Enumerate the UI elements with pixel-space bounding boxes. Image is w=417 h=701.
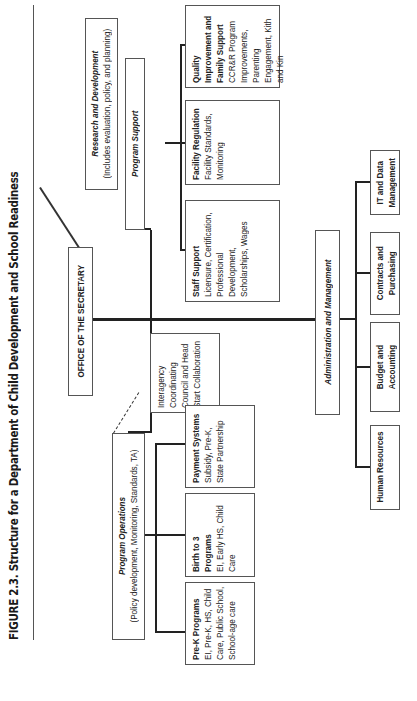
research-subtitle: (Includes evaluation, policy, and planni… bbox=[101, 19, 113, 190]
it-data-management-label: IT and Data Management bbox=[374, 151, 398, 214]
title-rule bbox=[33, 5, 34, 640]
ps-down bbox=[165, 143, 180, 145]
birth-to-3-box: Birth to 3 Programs EI, Early HS, Child … bbox=[185, 493, 255, 577]
admin-to-it bbox=[355, 182, 370, 184]
org-chart: FIGURE 2.3. Structure for a Department o… bbox=[0, 0, 417, 701]
program-operations-box: Program Operations (Policy development, … bbox=[112, 433, 145, 640]
admin-to-budget bbox=[355, 367, 370, 369]
pre-k-programs-box: Pre-K Programs EI, Pre-K, HS, Child Care… bbox=[185, 582, 255, 665]
budget-accounting-label: Budget and Accounting bbox=[374, 323, 398, 411]
pre-k-programs-title: Pre-K Programs bbox=[190, 587, 202, 660]
birth-to-3-title: Birth to 3 Programs bbox=[190, 498, 214, 572]
pre-k-programs-body: EI, Pre-K, HS, Child Care, Public School… bbox=[202, 587, 238, 660]
human-resources-label: Human Resources bbox=[374, 426, 386, 509]
program-support-box: Program Support bbox=[125, 58, 145, 230]
office-of-secretary-label: OFFICE OF THE SECRETARY bbox=[75, 248, 87, 395]
po-stem bbox=[145, 535, 155, 537]
payment-systems-title: Payment Systems bbox=[190, 410, 202, 483]
interagency-box: Interagency Coordinating Council and Hea… bbox=[150, 333, 220, 413]
ops-to-interagency-dashed-line bbox=[113, 392, 139, 433]
program-operations-subtitle: (Policy development, Monitoring, Standar… bbox=[128, 434, 140, 640]
staff-support-body: Licensure, Certification, Professional D… bbox=[202, 205, 250, 297]
ps-rail bbox=[180, 45, 182, 251]
contracts-purchasing-label: Contracts and Purchasing bbox=[374, 233, 398, 314]
administration-title: Administration and Management bbox=[322, 231, 334, 415]
contracts-purchasing-box: Contracts and Purchasing bbox=[370, 232, 400, 315]
admin-stem bbox=[340, 319, 355, 321]
central-spine bbox=[93, 319, 315, 321]
it-data-management-box: IT and Data Management bbox=[370, 150, 400, 215]
po-to-payment bbox=[155, 444, 185, 446]
po-to-birth3 bbox=[155, 535, 185, 537]
staff-support-title: Staff Support bbox=[190, 205, 202, 297]
figure-title: FIGURE 2.3. Structure for a Department o… bbox=[6, 172, 21, 640]
secretary-to-research-line bbox=[39, 187, 81, 251]
program-support-stem bbox=[145, 229, 151, 231]
facility-regulation-body: Facility Standards, Monitoring bbox=[202, 105, 226, 180]
po-rail bbox=[155, 444, 157, 633]
human-resources-box: Human Resources bbox=[370, 425, 400, 510]
payment-systems-box: Payment Systems Subsidy, Pre-K, State Pa… bbox=[185, 405, 255, 488]
secretary-connector bbox=[93, 320, 95, 321]
research-development-box: Research and Development (Includes evalu… bbox=[85, 18, 118, 190]
budget-accounting-box: Budget and Accounting bbox=[370, 322, 400, 412]
program-support-title: Program Support bbox=[129, 59, 141, 230]
admin-rail bbox=[355, 182, 357, 468]
program-operations-title: Program Operations bbox=[116, 434, 128, 640]
quality-improvement-title: Quality Improvement and Family Support bbox=[190, 10, 226, 83]
admin-to-contracts bbox=[355, 273, 370, 275]
interagency-label: Interagency Coordinating Council and Hea… bbox=[155, 338, 203, 408]
facility-regulation-title: Facility Regulation bbox=[190, 105, 202, 180]
office-of-secretary-box: OFFICE OF THE SECRETARY bbox=[68, 247, 93, 396]
quality-improvement-body: CCR&R Program Improvements, Parenting En… bbox=[226, 10, 286, 83]
facility-regulation-box: Facility Regulation Facility Standards, … bbox=[185, 100, 280, 185]
research-title: Research and Development bbox=[89, 19, 101, 190]
administration-box: Administration and Management bbox=[315, 230, 340, 415]
staff-support-box: Staff Support Licensure, Certification, … bbox=[185, 200, 280, 302]
quality-improvement-box: Quality Improvement and Family Support C… bbox=[185, 5, 280, 88]
payment-systems-body: Subsidy, Pre-K, State Partnership bbox=[202, 410, 226, 483]
admin-to-hr bbox=[355, 467, 370, 469]
birth-to-3-body: EI, Early HS, Child Care bbox=[214, 498, 238, 572]
po-to-prek bbox=[155, 632, 185, 634]
